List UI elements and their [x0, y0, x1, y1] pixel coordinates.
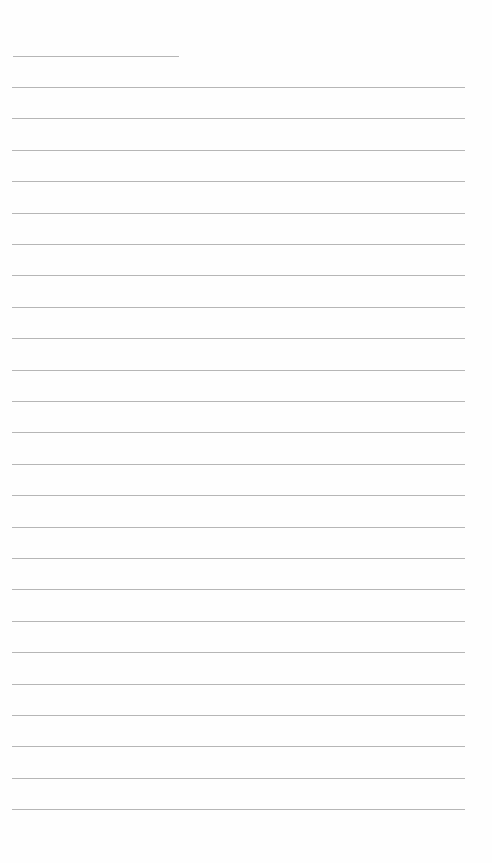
ruled-line	[12, 213, 465, 214]
ruled-line	[12, 275, 465, 276]
lined-paper-sheet	[0, 0, 492, 863]
ruled-line	[12, 527, 465, 528]
ruled-line	[12, 307, 465, 308]
ruled-line	[12, 370, 465, 371]
ruled-line	[12, 746, 465, 747]
ruled-line	[12, 715, 465, 716]
ruled-line	[12, 150, 465, 151]
ruled-line	[12, 809, 465, 810]
ruled-line	[12, 338, 465, 339]
ruled-line	[12, 652, 465, 653]
ruled-line	[12, 558, 465, 559]
ruled-line	[12, 432, 465, 433]
ruled-line	[12, 684, 465, 685]
ruled-line	[12, 244, 465, 245]
header-line	[13, 56, 179, 57]
ruled-line	[12, 495, 465, 496]
ruled-line	[12, 181, 465, 182]
ruled-line	[12, 118, 465, 119]
ruled-line	[12, 464, 465, 465]
ruled-line	[12, 621, 465, 622]
ruled-line	[12, 401, 465, 402]
ruled-line	[12, 589, 465, 590]
ruled-line	[12, 87, 465, 88]
ruled-line	[12, 778, 465, 779]
